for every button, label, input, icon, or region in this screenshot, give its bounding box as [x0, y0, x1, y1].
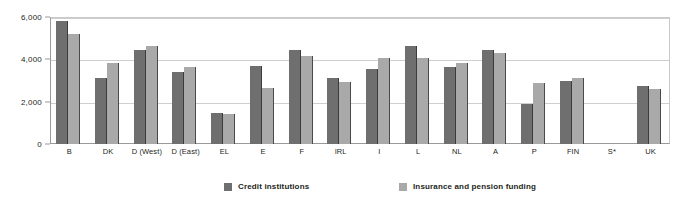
bar-group: [244, 17, 283, 144]
bar-group: [205, 17, 244, 144]
bar: [366, 69, 378, 144]
y-axis: 02,0004,0006,000: [0, 0, 50, 212]
bar-group: [554, 17, 593, 144]
x-axis-tick-label: I: [378, 147, 380, 156]
x-axis-tick-label: L: [416, 147, 420, 156]
x-axis-tick-label: NL: [452, 147, 462, 156]
bar: [107, 63, 119, 144]
bar: [250, 66, 262, 144]
bar-group: [50, 17, 89, 144]
bar-group: [128, 17, 167, 144]
bar: [146, 46, 158, 144]
bar: [637, 86, 649, 144]
bar: [184, 67, 196, 144]
x-axis-tick-label: B: [67, 147, 72, 156]
bar: [378, 58, 390, 144]
bar-group: [360, 17, 399, 144]
legend-item-insurance-and-pension-funding: Insurance and pension funding: [399, 182, 536, 191]
bar: [172, 72, 184, 144]
bar-group: [321, 17, 360, 144]
y-axis-tick-label: 2,000: [21, 97, 42, 106]
bar-group: [166, 17, 205, 144]
bar: [95, 78, 107, 144]
legend-swatch-icon: [399, 183, 407, 191]
bar: [68, 34, 80, 144]
bar: [533, 83, 545, 144]
x-axis-tick-label: A: [493, 147, 498, 156]
bar-group: [593, 17, 632, 144]
chart-legend: Credit institutions Insurance and pensio…: [0, 182, 683, 198]
y-axis-tick-label: 4,000: [21, 55, 42, 64]
x-axis-tick-label: DK: [103, 147, 114, 156]
x-axis-tick-label: S*: [608, 147, 616, 156]
bar-group: [476, 17, 515, 144]
y-axis-tick-label: 6,000: [21, 13, 42, 22]
bar: [327, 78, 339, 144]
x-axis-tick-label: EL: [220, 147, 229, 156]
legend-label: Insurance and pension funding: [413, 182, 536, 191]
x-axis-tick-label: D (West): [132, 147, 162, 156]
x-axis: BDKD (West)D (East)ELEFIRLILNLAPFINS*UK: [50, 147, 670, 161]
x-axis-tick-label: F: [300, 147, 305, 156]
bar: [339, 82, 351, 144]
x-axis-tick-label: E: [261, 147, 266, 156]
bars-layer: [50, 17, 670, 144]
bar: [494, 53, 506, 144]
bar-group: [631, 17, 670, 144]
bar: [482, 50, 494, 144]
bar-group: [438, 17, 477, 144]
bar: [223, 114, 235, 144]
bar-group: [89, 17, 128, 144]
bar: [649, 89, 661, 144]
x-axis-tick-label: FIN: [567, 147, 579, 156]
bar-group: [515, 17, 554, 144]
bar: [301, 56, 313, 144]
bar: [456, 63, 468, 144]
bar: [521, 104, 533, 144]
bar: [572, 78, 584, 144]
x-axis-tick-label: UK: [645, 147, 656, 156]
bar-group: [399, 17, 438, 144]
bar: [289, 50, 301, 144]
bar: [444, 67, 456, 144]
legend-label: Credit institutions: [238, 182, 309, 191]
bar: [56, 21, 68, 144]
bar: [560, 81, 572, 145]
bar: [405, 46, 417, 144]
bar: [417, 58, 429, 144]
legend-item-credit-institutions: Credit institutions: [224, 182, 309, 191]
x-axis-tick-label: P: [532, 147, 537, 156]
bar: [134, 50, 146, 144]
x-axis-tick-label: IRL: [335, 147, 347, 156]
bar-chart: 02,0004,0006,000 BDKD (West)D (East)ELEF…: [0, 0, 683, 212]
bar: [211, 113, 223, 144]
bar-group: [283, 17, 322, 144]
y-axis-tick-label: 0: [37, 140, 42, 149]
legend-swatch-icon: [224, 183, 232, 191]
x-axis-tick-label: D (East): [171, 147, 199, 156]
bar: [262, 88, 274, 144]
